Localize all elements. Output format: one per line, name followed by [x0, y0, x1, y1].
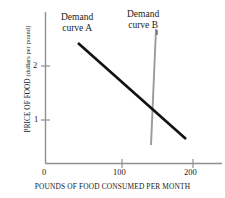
- x-axis-tick-label-0: 0: [42, 167, 46, 177]
- demand-curve-a-label-line2: curve A: [61, 23, 93, 34]
- demand-curve-a-line: [78, 43, 186, 139]
- x-axis-tick-label-100: 100: [113, 167, 126, 177]
- x-axis-tick-label-200: 200: [184, 167, 197, 177]
- x-axis-title: POUNDS OF FOOD CONSUMED PER MONTH: [0, 182, 225, 191]
- demand-curve-b-label-line2: curve B: [127, 20, 159, 31]
- y-axis-tick-label-2: 2: [33, 60, 37, 70]
- y-axis-title-unit: (dollars per pound): [24, 26, 31, 77]
- demand-curve-b-label: Demand curve B: [127, 9, 159, 30]
- demand-curve-b-label-line1: Demand: [127, 9, 159, 20]
- y-axis-tick-label-1: 1: [34, 114, 38, 124]
- demand-curve-chart: Demand curve A Demand curve B 2 1 0 100 …: [0, 0, 225, 198]
- demand-curve-b-line: [151, 29, 156, 145]
- demand-curve-a-label: Demand curve A: [61, 12, 93, 33]
- demand-curve-a-label-line1: Demand: [61, 12, 93, 23]
- y-axis-title-main: PRICE OF FOOD: [24, 76, 32, 132]
- y-axis-title: PRICE OF FOOD (dollars per pound): [16, 4, 30, 154]
